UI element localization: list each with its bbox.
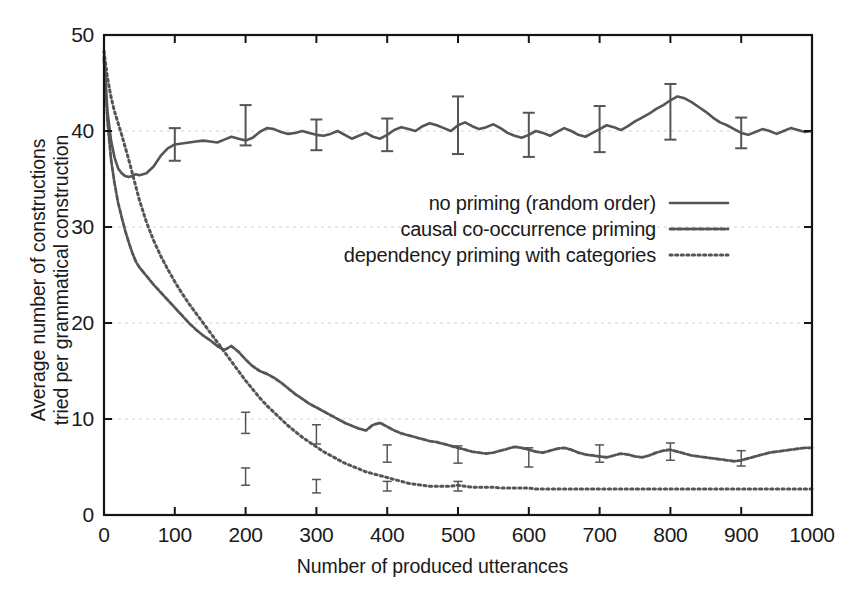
x-tick-label-700: 700: [583, 523, 617, 547]
chart-figure: Average number of constructions tried pe…: [0, 0, 865, 599]
x-tick-label-600: 600: [512, 523, 546, 547]
legend-swatch-dashed-icon: [668, 219, 730, 239]
legend-item-2[interactable]: dependency priming with categories: [330, 242, 730, 268]
legend-swatch-solid-icon: [668, 193, 730, 213]
legend-item-0[interactable]: no priming (random order): [330, 190, 730, 216]
x-tick-label-1000: 1000: [789, 523, 835, 547]
chart-legend: no priming (random order)causal co-occur…: [330, 190, 730, 268]
x-tick-label-group: 01002003004005006007008009001000: [0, 0, 865, 599]
legend-swatch-dotted-icon: [668, 245, 730, 265]
x-tick-label-800: 800: [653, 523, 687, 547]
x-tick-label-500: 500: [441, 523, 475, 547]
x-tick-label-900: 900: [724, 523, 758, 547]
x-tick-label-100: 100: [158, 523, 192, 547]
x-tick-label-400: 400: [370, 523, 404, 547]
x-axis-label: Number of produced utterances: [0, 555, 865, 578]
legend-label-0: no priming (random order): [429, 192, 656, 215]
legend-item-1[interactable]: causal co-occurrence priming: [330, 216, 730, 242]
legend-label-2: dependency priming with categories: [344, 244, 656, 267]
x-tick-label-200: 200: [229, 523, 263, 547]
x-tick-label-300: 300: [299, 523, 333, 547]
x-tick-label-0: 0: [98, 523, 109, 547]
legend-label-1: causal co-occurrence priming: [400, 218, 656, 241]
